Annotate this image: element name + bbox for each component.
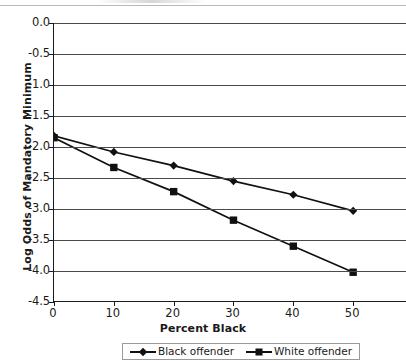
- legend-label: Black offender: [158, 346, 234, 357]
- gridline: [54, 54, 406, 55]
- diamond-marker-icon: [130, 346, 156, 357]
- x-axis-title: Percent Black: [0, 322, 406, 335]
- legend-item-white-offender: White offender: [246, 346, 352, 357]
- x-tick-label: 20: [153, 308, 193, 320]
- plot-area: [53, 23, 406, 302]
- y-tick-label: -3.0: [10, 203, 50, 215]
- gridline: [54, 147, 406, 148]
- square-marker-icon: [246, 346, 272, 357]
- y-tick-label: -2.0: [10, 141, 50, 153]
- x-tick-label: 50: [332, 308, 372, 320]
- gridline: [54, 178, 406, 179]
- gridline: [54, 85, 406, 86]
- gridline: [54, 23, 406, 24]
- gridline: [54, 209, 406, 210]
- y-tick-label: -0.5: [10, 48, 50, 60]
- y-tick-label: -3.5: [10, 234, 50, 246]
- top-rule-divider: [0, 5, 406, 6]
- gridline: [54, 271, 406, 272]
- y-tick-label: -1.5: [10, 110, 50, 122]
- gridline: [54, 116, 406, 117]
- x-tick-label: 10: [93, 308, 133, 320]
- y-tick-label: -4.5: [10, 296, 50, 308]
- legend-label: White offender: [274, 346, 352, 357]
- y-tick-label: -4.0: [10, 265, 50, 277]
- cropped-title-sliver: [96, 0, 206, 3]
- x-tick-label: 30: [212, 308, 252, 320]
- x-tick-label: 0: [33, 308, 73, 320]
- y-tick-label: -1.0: [10, 79, 50, 91]
- gridlines: [54, 23, 406, 301]
- y-tick-label: 0.0: [10, 17, 50, 29]
- x-tick-label: 40: [272, 308, 312, 320]
- legend-item-black-offender: Black offender: [130, 346, 234, 357]
- y-tick-label: -2.5: [10, 172, 50, 184]
- chart-legend: Black offender White offender: [122, 343, 360, 360]
- gridline: [54, 240, 406, 241]
